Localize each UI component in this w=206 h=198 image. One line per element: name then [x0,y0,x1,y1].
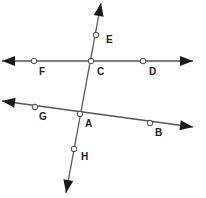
points-group: EFCDGABH [31,32,162,162]
point-label: A [85,118,92,129]
diagram-canvas: EFCDGABH [0,0,206,198]
line-EH-stroke [66,3,101,193]
lines-group [2,3,193,193]
line-GB-stroke [2,101,193,127]
point-marker-icon [140,58,146,64]
point-label: C [97,66,104,77]
point-label: B [155,127,162,138]
point-label: G [39,111,47,122]
line-EH [63,3,103,193]
point-marker-icon [77,111,83,117]
point-label: F [39,66,45,77]
point-marker-icon [88,58,94,64]
point-label: D [149,66,156,77]
point-marker-icon [147,120,153,126]
point-label: E [106,34,113,45]
arrowhead-icon [180,56,193,66]
point-marker-icon [31,58,37,64]
arrowhead-icon [179,120,193,130]
arrowhead-icon [94,3,104,17]
line-GB [2,98,193,130]
point-marker-icon [32,104,38,110]
point-label: H [81,151,88,162]
arrowhead-icon [2,98,16,108]
arrowhead-icon [2,56,15,66]
point-marker-icon [71,146,77,152]
line-FD [2,56,193,66]
arrowhead-icon [63,179,73,193]
point-marker-icon [93,32,99,38]
point-E: E [93,32,113,45]
